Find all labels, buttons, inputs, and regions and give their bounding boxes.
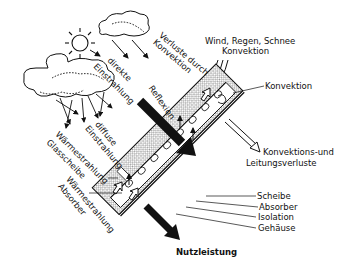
arrow-icon (146, 206, 180, 240)
sun-icon (65, 28, 95, 58)
label-weather: Wind, Regen, Schnee (205, 37, 295, 46)
label-layer-pane: Scheibe (257, 192, 291, 201)
label-conduction-losses-2: Leitungsverluste (246, 159, 317, 168)
label-useful-output: Nutzleistung (176, 248, 237, 257)
label-convection-right: Konvektion (265, 82, 312, 91)
label-conduction-losses-1: Konvektions-und (263, 148, 334, 157)
label-convection-top: Konvektion (222, 47, 269, 56)
label-layer-absorber: Absorber (259, 203, 297, 212)
label-layer-housing: Gehäuse (258, 224, 295, 233)
label-layer-insulation: Isolation (258, 213, 294, 222)
cloud-icon (99, 11, 149, 36)
